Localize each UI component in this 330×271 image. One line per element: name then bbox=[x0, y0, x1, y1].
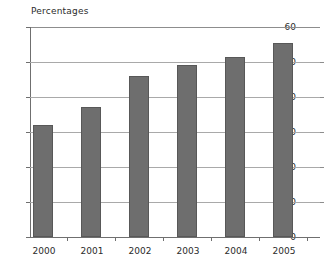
x-axis-tick-3 bbox=[211, 237, 212, 241]
y-axis-right-tick-10 bbox=[320, 202, 324, 203]
chart-title: Percentages bbox=[31, 6, 89, 16]
y-axis-tick-40 bbox=[26, 97, 30, 98]
bar-chart: Percentages 60 50 40 30 20 10 0 bbox=[0, 0, 330, 271]
x-tick-label-2003: 2003 bbox=[164, 246, 212, 257]
bar-2005 bbox=[273, 43, 293, 237]
y-axis-tick-30 bbox=[26, 132, 30, 133]
bar-2001 bbox=[81, 107, 101, 237]
x-axis-tick-5 bbox=[307, 237, 308, 241]
x-tick-label-2000: 2000 bbox=[20, 246, 68, 257]
bar-2004 bbox=[225, 57, 245, 237]
x-axis-tick-4 bbox=[259, 237, 260, 241]
y-axis-right-tick-40 bbox=[320, 97, 324, 98]
plot-area bbox=[30, 27, 320, 237]
x-tick-label-2001: 2001 bbox=[68, 246, 116, 257]
y-axis-right-tick-50 bbox=[320, 62, 324, 63]
category-axis-line bbox=[30, 237, 320, 238]
plot-top-border bbox=[30, 27, 320, 28]
y-axis-tick-0 bbox=[26, 237, 30, 238]
x-tick-label-2005: 2005 bbox=[260, 246, 308, 257]
y-axis-right-tick-30 bbox=[320, 132, 324, 133]
y-axis-tick-60 bbox=[26, 27, 30, 28]
x-tick-label-2002: 2002 bbox=[116, 246, 164, 257]
y-axis-tick-20 bbox=[26, 167, 30, 168]
x-axis-tick-1 bbox=[115, 237, 116, 241]
x-axis-tick-0 bbox=[67, 237, 68, 241]
x-tick-label-2004: 2004 bbox=[212, 246, 260, 257]
y-axis-right-tick-20 bbox=[320, 167, 324, 168]
y-axis-tick-10 bbox=[26, 202, 30, 203]
bar-2000 bbox=[33, 125, 53, 237]
bar-2002 bbox=[129, 76, 149, 237]
y-axis-tick-50 bbox=[26, 62, 30, 63]
bar-2003 bbox=[177, 65, 197, 237]
x-axis-tick-2 bbox=[163, 237, 164, 241]
